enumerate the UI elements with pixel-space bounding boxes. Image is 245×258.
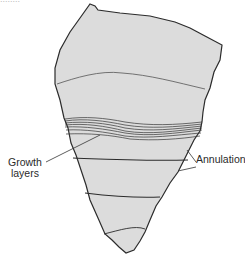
growth-layers-label: Growth layers (8, 157, 42, 179)
annulation-leader-upper (187, 150, 196, 162)
growth-layers-label-line2: layers (8, 168, 42, 179)
annulation-label: Annulation (196, 154, 245, 165)
fossil-diagram (0, 0, 245, 258)
